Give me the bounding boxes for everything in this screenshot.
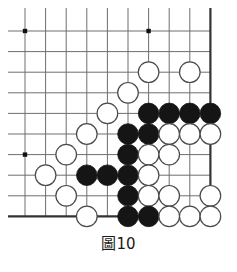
- stone-white-6-7[interactable]: [138, 165, 159, 186]
- stone-black-5-8[interactable]: [118, 186, 139, 207]
- stone-black-3-7[interactable]: [77, 165, 98, 186]
- stone-white-7-6[interactable]: [159, 144, 180, 165]
- stone-white-6-6[interactable]: [138, 144, 159, 165]
- caption-number: 10: [116, 234, 135, 254]
- stone-white-9-8[interactable]: [200, 186, 221, 207]
- stone-white-5-3[interactable]: [118, 83, 139, 104]
- stone-white-7-5[interactable]: [159, 124, 180, 145]
- stone-white-2-6[interactable]: [56, 144, 77, 165]
- stone-white-2-8[interactable]: [56, 186, 77, 207]
- stone-white-7-9[interactable]: [159, 206, 180, 227]
- stone-white-3-5[interactable]: [77, 124, 98, 145]
- stone-white-6-8[interactable]: [138, 186, 159, 207]
- stone-white-8-9[interactable]: [180, 206, 201, 227]
- stone-black-6-5[interactable]: [138, 124, 159, 145]
- stone-black-8-4[interactable]: [180, 103, 201, 124]
- stone-white-7-8[interactable]: [159, 186, 180, 207]
- go-board[interactable]: [0, 0, 237, 232]
- stone-black-5-7[interactable]: [118, 165, 139, 186]
- stone-white-9-5[interactable]: [200, 124, 221, 145]
- caption-label: 圖: [101, 234, 116, 254]
- stone-black-6-9[interactable]: [138, 206, 159, 227]
- stone-black-5-6[interactable]: [118, 144, 139, 165]
- stone-white-6-2[interactable]: [138, 62, 159, 83]
- go-diagram-figure: 圖10: [0, 0, 237, 272]
- stone-black-7-4[interactable]: [159, 103, 180, 124]
- stone-black-5-5[interactable]: [118, 124, 139, 145]
- stone-white-1-7[interactable]: [35, 165, 56, 186]
- stone-white-3-9[interactable]: [77, 206, 98, 227]
- stone-white-9-9[interactable]: [200, 206, 221, 227]
- stone-white-4-4[interactable]: [97, 103, 118, 124]
- star-point-0: [23, 29, 27, 33]
- stone-black-6-4[interactable]: [138, 103, 159, 124]
- star-point-2: [23, 152, 27, 156]
- stone-black-9-4[interactable]: [200, 103, 221, 124]
- stone-black-5-9[interactable]: [118, 206, 139, 227]
- go-board-svg[interactable]: [0, 0, 237, 232]
- stone-white-8-5[interactable]: [180, 124, 201, 145]
- figure-caption: 圖10: [0, 234, 237, 254]
- stone-black-4-7[interactable]: [97, 165, 118, 186]
- star-point-1: [146, 29, 150, 33]
- stone-white-8-2[interactable]: [180, 62, 201, 83]
